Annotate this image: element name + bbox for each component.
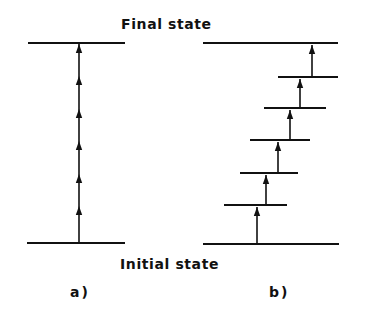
arrowhead-icon bbox=[76, 174, 82, 183]
panel-b-stepwise-transition bbox=[203, 43, 339, 244]
arrowhead-icon bbox=[275, 142, 281, 151]
initial-state-label: Initial state bbox=[120, 256, 219, 272]
arrowhead-icon bbox=[76, 109, 82, 118]
energy-level-diagram bbox=[0, 0, 367, 321]
panel-a-label: a) bbox=[70, 284, 90, 300]
final-state-label: Final state bbox=[121, 16, 212, 32]
panel-b-label: b) bbox=[269, 284, 289, 300]
arrowhead-icon bbox=[297, 79, 303, 88]
arrowhead-icon bbox=[287, 110, 293, 119]
arrowhead-icon bbox=[254, 207, 260, 216]
arrowhead-icon bbox=[76, 141, 82, 150]
arrowhead-icon bbox=[76, 206, 82, 215]
arrowhead-icon bbox=[263, 175, 269, 184]
arrowhead-icon bbox=[76, 44, 82, 53]
panel-a-direct-transition bbox=[27, 43, 125, 243]
arrowhead-icon bbox=[309, 45, 315, 54]
arrowhead-icon bbox=[76, 76, 82, 85]
